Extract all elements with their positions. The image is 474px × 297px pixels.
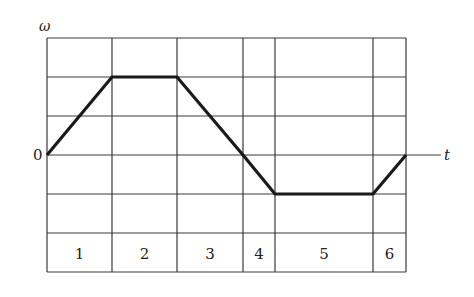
omega-curve — [47, 77, 406, 194]
y-axis-label: ω — [39, 18, 51, 34]
interval-label-1: 1 — [75, 245, 85, 263]
interval-label-5: 5 — [319, 245, 329, 263]
interval-label-2: 2 — [140, 245, 150, 263]
interval-label-4: 4 — [254, 245, 264, 263]
interval-label-6: 6 — [385, 245, 395, 263]
interval-label-3: 3 — [205, 245, 215, 263]
x-axis-label: t — [444, 146, 451, 164]
zero-label: 0 — [33, 146, 43, 164]
omega-vs-time-chart: ω t 0 123456 — [0, 0, 474, 297]
interval-labels: 123456 — [75, 245, 395, 263]
grid — [47, 38, 406, 272]
